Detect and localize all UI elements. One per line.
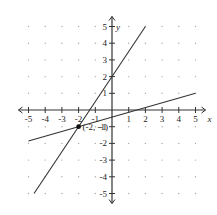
coordinate-plane: -5-4-3-2-112345-5-4-3-2-112345xy(-2, -1): [0, 0, 217, 215]
grid-dot: [128, 159, 129, 160]
grid-dot: [95, 193, 96, 194]
grid-dot: [161, 26, 162, 27]
grid-dot: [195, 76, 196, 77]
grid-dot: [145, 193, 146, 194]
y-tick-label: -2: [100, 138, 108, 148]
grid-dot: [128, 126, 129, 127]
grid-dot: [45, 93, 46, 94]
y-tick-label: 4: [103, 38, 108, 48]
grid-dot: [145, 159, 146, 160]
grid-dot: [145, 126, 146, 127]
grid-dot: [95, 143, 96, 144]
grid-dot: [145, 143, 146, 144]
grid-dot: [45, 76, 46, 77]
grid-dot: [28, 59, 29, 60]
grid-dot: [28, 93, 29, 94]
grid-dot: [28, 143, 29, 144]
grid-dot: [78, 193, 79, 194]
grid-dot: [61, 76, 62, 77]
grid-dot: [95, 76, 96, 77]
grid-dot: [195, 176, 196, 177]
grid-dot: [78, 143, 79, 144]
grid-dot: [61, 26, 62, 27]
grid-dot: [61, 126, 62, 127]
grid-dot: [178, 59, 179, 60]
grid-dot: [161, 193, 162, 194]
grid-dot: [45, 43, 46, 44]
grid-dot: [45, 159, 46, 160]
grid-dot: [78, 59, 79, 60]
grid-dot: [178, 126, 179, 127]
grid-dot: [178, 43, 179, 44]
grid-dot: [78, 26, 79, 27]
grid-dot: [145, 59, 146, 60]
y-tick-label: 5: [103, 22, 108, 32]
grid-dot: [161, 143, 162, 144]
y-tick-label: 3: [103, 55, 108, 65]
grid-dot: [195, 143, 196, 144]
x-tick-label: 1: [126, 114, 131, 124]
grid-dot: [61, 43, 62, 44]
grid-dot: [128, 193, 129, 194]
grid-dot: [161, 93, 162, 94]
x-tick-label: 2: [143, 114, 148, 124]
grid-dot: [145, 43, 146, 44]
grid-dot: [61, 143, 62, 144]
grid-dot: [61, 93, 62, 94]
grid-dot: [95, 26, 96, 27]
grid-dot: [178, 176, 179, 177]
grid-dot: [128, 76, 129, 77]
grid-dot: [145, 93, 146, 94]
grid-dot: [128, 93, 129, 94]
grid-dot: [28, 159, 29, 160]
intersection-label: (-2, -1): [83, 122, 109, 132]
x-tick-label: 5: [193, 114, 198, 124]
y-tick-label: -3: [100, 155, 108, 165]
y-tick-label: -4: [100, 172, 108, 182]
grid-dot: [78, 159, 79, 160]
grid-dot: [45, 59, 46, 60]
grid-dot: [178, 26, 179, 27]
grid-dot: [28, 126, 29, 127]
grid-dot: [195, 159, 196, 160]
grid-dot: [161, 126, 162, 127]
x-axis-label: x: [207, 114, 212, 124]
grid-dot: [78, 76, 79, 77]
intersection-point: [76, 124, 81, 129]
grid-dot: [78, 93, 79, 94]
grid-dot: [128, 143, 129, 144]
grid-dot: [195, 26, 196, 27]
grid-dot: [45, 193, 46, 194]
grid-dot: [78, 176, 79, 177]
grid-dot: [95, 159, 96, 160]
grid-dot: [95, 93, 96, 94]
y-axis-label: y: [115, 22, 120, 32]
grid-dot: [195, 43, 196, 44]
grid-dot: [28, 176, 29, 177]
grid-dot: [45, 26, 46, 27]
grid-dot: [145, 176, 146, 177]
grid-dot: [161, 176, 162, 177]
grid-dot: [128, 176, 129, 177]
grid-dot: [161, 159, 162, 160]
x-tick-label: 4: [177, 114, 182, 124]
grid-dot: [128, 26, 129, 27]
grid-dot: [95, 176, 96, 177]
x-tick-label: -3: [58, 114, 66, 124]
x-tick-label: 3: [160, 114, 165, 124]
grid-dot: [28, 193, 29, 194]
grid-dot: [161, 43, 162, 44]
grid-dot: [61, 193, 62, 194]
grid-dot: [45, 143, 46, 144]
grid-dot: [28, 26, 29, 27]
grid-dot: [195, 193, 196, 194]
grid-dot: [78, 43, 79, 44]
grid-dot: [178, 193, 179, 194]
grid-dot: [95, 59, 96, 60]
grid-dot: [128, 43, 129, 44]
y-tick-label: 2: [103, 72, 108, 82]
grid-dot: [45, 126, 46, 127]
grid-dot: [95, 43, 96, 44]
y-tick-label: -5: [100, 189, 108, 199]
grid-dot: [195, 126, 196, 127]
